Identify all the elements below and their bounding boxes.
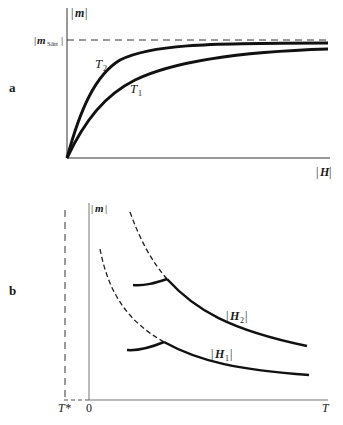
svg-text:2: 2 [240, 316, 244, 325]
svg-text:1: 1 [138, 89, 142, 98]
svg-text:Sätt: Sätt [47, 40, 58, 48]
svg-text:|: | [71, 6, 73, 20]
curve-h2-label: | H 2 | [226, 309, 247, 325]
svg-text:1: 1 [225, 354, 229, 363]
curve-t2-label: T 2 [95, 56, 107, 73]
svg-text:m: m [75, 6, 84, 20]
panel-b-x-label: T [322, 401, 330, 415]
panel-a-y-label: | m | [71, 6, 87, 20]
curve-h2-stub [133, 279, 167, 285]
svg-text:|: | [34, 34, 36, 46]
svg-text:|: | [226, 309, 228, 323]
panel-a: a | m | | H | | m Sätt | T 2 [9, 6, 331, 179]
curve-h2-extrapolation [130, 212, 167, 279]
curve-h1-stub [127, 342, 164, 350]
tstar-label: T* [58, 401, 71, 415]
panel-a-x-label: | H | [316, 165, 331, 179]
panel-a-label: a [9, 80, 16, 95]
svg-text:|: | [61, 34, 63, 46]
svg-text:|: | [245, 309, 247, 323]
panel-b-label: b [9, 283, 16, 298]
svg-text:|: | [85, 6, 87, 20]
svg-text:T: T [130, 81, 138, 96]
curve-h1 [164, 342, 309, 375]
svg-text:|: | [91, 202, 93, 214]
svg-text:|: | [316, 165, 318, 179]
svg-text:2: 2 [103, 64, 107, 73]
svg-text:H: H [229, 309, 240, 323]
svg-text:T: T [95, 56, 103, 71]
saturation-label: | m Sätt | [34, 34, 63, 48]
origin-label: 0 [86, 401, 92, 415]
svg-text:|: | [329, 165, 331, 179]
curve-h1-label: | H 1 | [211, 347, 232, 363]
svg-text:m: m [37, 34, 46, 46]
curve-t1-label: T 1 [130, 81, 142, 98]
figure: a | m | | H | | m Sätt | T 2 [0, 0, 343, 425]
svg-text:|: | [211, 347, 213, 361]
panel-b-y-label: | m | [91, 202, 107, 214]
panel-b: b | m | T* 0 T | H 2 | | H [9, 202, 330, 415]
svg-text:H: H [214, 347, 225, 361]
svg-text:|: | [105, 202, 107, 214]
svg-text:|: | [230, 347, 232, 361]
svg-text:m: m [95, 202, 104, 214]
